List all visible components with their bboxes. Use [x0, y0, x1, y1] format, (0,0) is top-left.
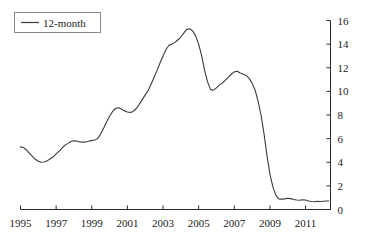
y-tick-label-8: 8 — [338, 109, 344, 121]
x-tick-label-2009: 2009 — [259, 217, 282, 229]
x-tick-label-1997: 1997 — [45, 217, 68, 229]
x-tick-label-2001: 2001 — [116, 217, 138, 229]
x-tick-label-2007: 2007 — [223, 217, 246, 229]
x-axis-ticks: 199519971999200120032005200720092011 — [10, 206, 317, 229]
x-tick-label-1995: 1995 — [10, 217, 33, 229]
y-tick-label-2: 2 — [338, 180, 344, 192]
series-group — [21, 29, 329, 202]
y-tick-label-16: 16 — [338, 15, 350, 27]
series-line-12-month — [21, 29, 329, 202]
legend: 12-month — [15, 13, 101, 33]
chart-container: 0246810121416 19951997199920012003200520… — [0, 0, 372, 241]
y-tick-label-6: 6 — [338, 133, 344, 145]
legend-label-12-month: 12-month — [43, 17, 86, 29]
x-tick-label-2011: 2011 — [295, 217, 317, 229]
y-axis-ticks: 0246810121416 — [327, 15, 350, 216]
y-tick-label-0: 0 — [338, 204, 344, 216]
y-tick-label-4: 4 — [338, 156, 344, 168]
y-tick-label-10: 10 — [338, 85, 350, 97]
y-tick-label-12: 12 — [338, 62, 349, 74]
x-tick-label-1999: 1999 — [81, 217, 104, 229]
y-tick-label-14: 14 — [338, 38, 350, 50]
x-tick-label-2003: 2003 — [152, 217, 175, 229]
x-tick-label-2005: 2005 — [188, 217, 211, 229]
line-chart: 0246810121416 19951997199920012003200520… — [0, 0, 372, 241]
